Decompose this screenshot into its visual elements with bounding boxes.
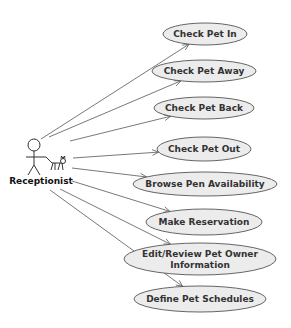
association-arrow bbox=[41, 44, 189, 139]
use-case-uc1[interactable]: Check Pet In bbox=[163, 23, 247, 45]
use-case-uc7[interactable]: Edit/Review Pet OwnerInformation bbox=[124, 243, 276, 275]
use-case-uc5[interactable]: Browse Pen Availability bbox=[133, 172, 277, 196]
arrowhead-icon bbox=[182, 44, 189, 50]
use-case-label: Define Pet Schedules bbox=[146, 294, 254, 304]
use-case-label: Edit/Review Pet Owner bbox=[142, 249, 258, 259]
use-cases: Check Pet InCheck Pet AwayCheck Pet Back… bbox=[124, 23, 277, 312]
use-case-uc8[interactable]: Define Pet Schedules bbox=[134, 286, 266, 312]
use-case-diagram: Check Pet InCheck Pet AwayCheck Pet Back… bbox=[0, 0, 291, 328]
actor-label: Receptionist bbox=[9, 176, 73, 186]
actor-receptionist[interactable]: Receptionist bbox=[9, 139, 73, 186]
use-case-uc3[interactable]: Check Pet Back bbox=[154, 97, 254, 119]
stick-figure-icon bbox=[26, 139, 46, 175]
diagram-canvas: Check Pet InCheck Pet AwayCheck Pet Back… bbox=[0, 0, 291, 328]
use-case-label: Make Reservation bbox=[159, 217, 250, 227]
association-arrow bbox=[70, 115, 171, 141]
association-arrow bbox=[72, 168, 147, 179]
use-case-uc6[interactable]: Make Reservation bbox=[146, 209, 262, 235]
use-case-uc2[interactable]: Check Pet Away bbox=[152, 60, 256, 82]
association-arrow bbox=[73, 150, 159, 158]
use-case-label: Information bbox=[170, 260, 230, 270]
cat-icon bbox=[46, 156, 66, 170]
use-case-label: Browse Pen Availability bbox=[145, 179, 264, 189]
use-case-label: Check Pet Away bbox=[164, 66, 245, 76]
use-case-label: Check Pet Back bbox=[165, 103, 244, 113]
use-case-uc4[interactable]: Check Pet Out bbox=[157, 137, 251, 161]
use-case-label: Check Pet In bbox=[173, 29, 236, 39]
use-case-label: Check Pet Out bbox=[168, 144, 241, 154]
